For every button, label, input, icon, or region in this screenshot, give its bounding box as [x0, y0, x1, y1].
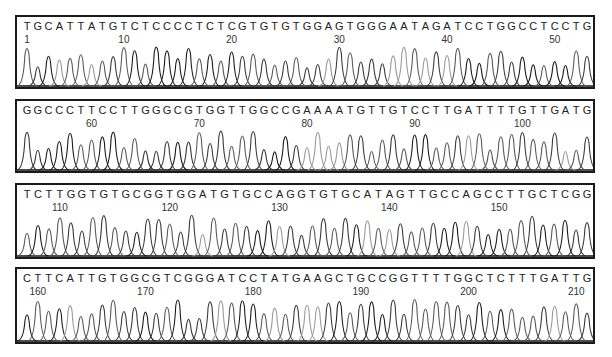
- trace-peak: [491, 51, 511, 86]
- base-call: G: [195, 272, 204, 284]
- base-call: T: [562, 272, 569, 284]
- base-call: C: [335, 272, 343, 284]
- base-call: A: [314, 104, 321, 116]
- trace-plot: [17, 211, 593, 257]
- base-call: C: [152, 20, 160, 32]
- base-call: A: [465, 104, 472, 116]
- base-call: T: [232, 188, 239, 200]
- base-call: C: [174, 272, 182, 284]
- base-call: G: [528, 188, 537, 200]
- base-call: C: [465, 20, 473, 32]
- base-call: G: [583, 272, 592, 284]
- base-call: T: [121, 20, 128, 32]
- trace-peak: [28, 301, 48, 341]
- trace-peak: [189, 133, 209, 170]
- base-call: G: [396, 188, 405, 200]
- base-call: T: [111, 188, 118, 200]
- base-calls: GGCCCTTCCTTGGGCGTGGTTGGCCGAAAATGTTGTCCTT…: [17, 104, 593, 118]
- base-call: G: [297, 188, 306, 200]
- base-call: C: [539, 188, 547, 200]
- trace-peak: [137, 219, 158, 256]
- base-call: G: [507, 20, 516, 32]
- trace-peak: [448, 136, 468, 170]
- base-call: T: [530, 272, 537, 284]
- base-call: C: [440, 188, 448, 200]
- base-call: C: [174, 20, 182, 32]
- base-call: T: [419, 188, 426, 200]
- base-call: T: [476, 104, 483, 116]
- trace-peak: [445, 222, 466, 256]
- base-call: A: [551, 272, 558, 284]
- trace-peak: [469, 303, 489, 341]
- base-call: G: [187, 188, 196, 200]
- base-call: A: [199, 188, 206, 200]
- base-call: A: [364, 188, 371, 200]
- base-call: C: [561, 188, 569, 200]
- base-call: G: [319, 188, 328, 200]
- base-call: T: [210, 188, 217, 200]
- base-call: T: [261, 272, 268, 284]
- base-call: G: [292, 272, 301, 284]
- base-call: T: [77, 104, 84, 116]
- trace-peak: [38, 56, 58, 86]
- trace-peak: [243, 54, 263, 86]
- base-call: T: [77, 20, 84, 32]
- base-call: G: [122, 188, 131, 200]
- trace-peak: [71, 55, 91, 86]
- base-call: C: [228, 20, 236, 32]
- base-call: G: [453, 272, 462, 284]
- base-call: C: [497, 272, 505, 284]
- trace-peak: [577, 223, 593, 256]
- trace-peak: [383, 300, 403, 341]
- base-call: G: [220, 188, 229, 200]
- trace-peak: [114, 48, 134, 86]
- base-call: G: [67, 188, 76, 200]
- base-call: A: [217, 272, 224, 284]
- base-call: A: [314, 272, 321, 284]
- base-call: T: [530, 104, 537, 116]
- base-call: T: [433, 104, 440, 116]
- base-call: G: [389, 104, 398, 116]
- base-call: C: [66, 104, 74, 116]
- base-call: T: [487, 20, 494, 32]
- trace-peak: [329, 47, 349, 86]
- base-call: G: [583, 20, 592, 32]
- base-call: G: [378, 20, 387, 32]
- base-call: T: [24, 20, 31, 32]
- base-call: G: [357, 104, 366, 116]
- base-call: G: [341, 188, 350, 200]
- base-call: C: [254, 188, 262, 200]
- base-call: T: [77, 272, 84, 284]
- base-call: A: [562, 104, 569, 116]
- trace-plot: [17, 43, 593, 87]
- base-call: G: [281, 20, 290, 32]
- trace-peak: [297, 305, 317, 341]
- base-call: C: [368, 272, 376, 284]
- trace-peak: [534, 307, 554, 341]
- base-call: A: [271, 272, 278, 284]
- trace-peak: [456, 222, 477, 256]
- base-call: T: [121, 104, 128, 116]
- trace-peak: [544, 62, 564, 86]
- base-call: A: [325, 20, 332, 32]
- base-call: C: [378, 272, 386, 284]
- base-call: T: [45, 272, 52, 284]
- base-call: C: [23, 272, 31, 284]
- trace-peak: [340, 135, 360, 170]
- base-call: C: [34, 188, 42, 200]
- base-call: T: [497, 104, 504, 116]
- base-call: G: [206, 272, 215, 284]
- base-call: C: [55, 272, 63, 284]
- base-call: G: [130, 272, 139, 284]
- base-call: T: [411, 20, 418, 32]
- base-call: C: [249, 272, 257, 284]
- base-call: G: [100, 188, 109, 200]
- base-call: G: [286, 188, 295, 200]
- base-calls: TGCATTATGTCTCCCCTCTCGTGTGTGGAGTGGGAATAGA…: [17, 20, 593, 34]
- trace-peak: [148, 219, 169, 256]
- base-call: T: [239, 104, 246, 116]
- chromatogram-panel-4: CTTCATTGTGGCGTCGGGATCCTATGAAGCTGCCGGTTTT…: [15, 267, 595, 344]
- base-call: T: [57, 188, 64, 200]
- base-call: C: [529, 20, 537, 32]
- base-call: T: [90, 188, 97, 200]
